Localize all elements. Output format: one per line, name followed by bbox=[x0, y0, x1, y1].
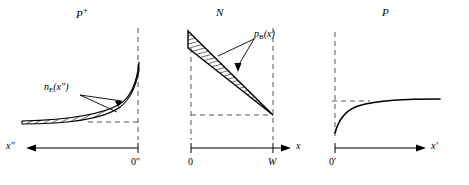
origin-label-0-prime: 0′ bbox=[329, 156, 336, 167]
panel-p-plus: P+ nE(x″) x″ 0″ bbox=[0, 0, 160, 185]
figure-container: P+ nE(x″) x″ 0″ bbox=[0, 0, 469, 185]
origin-label-0-double-prime: 0″ bbox=[131, 156, 140, 167]
tick-label-w: W bbox=[268, 156, 276, 167]
leader-arrowhead bbox=[235, 63, 242, 72]
axis-label-x: x bbox=[296, 140, 300, 151]
axis-label-x1: x′ bbox=[431, 140, 438, 151]
origin-label-zero: 0 bbox=[188, 156, 193, 167]
curve-label-pb: pB(x) bbox=[254, 28, 275, 39]
carrier-curve-saturating bbox=[335, 99, 440, 133]
carrier-band-hatched bbox=[22, 62, 139, 124]
curve-label-ne: nE(x″) bbox=[44, 81, 69, 92]
region-title-n: N bbox=[216, 6, 223, 18]
panel-p: P x′ 0′ bbox=[310, 0, 469, 185]
panel-n: N pB(x) x 0 W bbox=[150, 0, 320, 185]
region-title-p: P bbox=[382, 6, 389, 18]
axis-arrowhead-x bbox=[281, 145, 291, 152]
region-title-p-plus: P+ bbox=[76, 6, 88, 20]
panel-n-graphics bbox=[150, 0, 320, 185]
axis-arrowhead-x2 bbox=[26, 145, 36, 152]
axis-arrowhead-x1 bbox=[416, 145, 426, 152]
axis-label-x2: x″ bbox=[6, 140, 15, 151]
carrier-wedge-hatched bbox=[188, 31, 273, 115]
